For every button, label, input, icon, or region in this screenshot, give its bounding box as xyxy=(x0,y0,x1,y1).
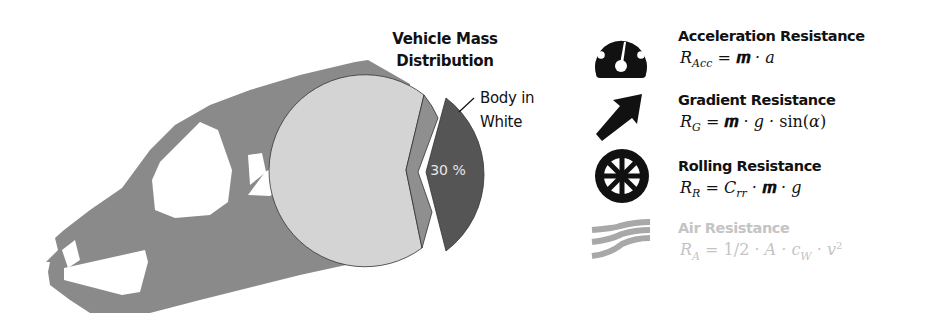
legend-name: Acceleration Resistance xyxy=(678,28,865,44)
wheel-icon xyxy=(590,148,652,208)
legend-item-air: Air Resistance RA = 1/2 · A · cW · v2 xyxy=(590,218,930,278)
pie-title-line-2: Distribution xyxy=(385,50,505,72)
pie-label-line-1: Body in xyxy=(480,86,534,110)
resistance-legend: Acceleration Resistance RAcc = 𝒎 · a Gra… xyxy=(590,0,931,313)
pie-title-line-1: Vehicle Mass xyxy=(385,28,505,50)
arrow-up-right-icon xyxy=(590,90,652,150)
pie-slice-label: Body in White xyxy=(480,86,534,134)
legend-item-acceleration: Acceleration Resistance RAcc = 𝒎 · a xyxy=(590,26,930,86)
leader-line xyxy=(459,98,474,112)
legend-formula: RAcc = 𝒎 · a xyxy=(680,48,775,70)
legend-name: Air Resistance xyxy=(678,220,790,236)
legend-formula: RG = 𝒎 · g · sin(α) xyxy=(680,112,826,134)
diagram: Vehicle Mass Distribution Body in White … xyxy=(0,0,931,313)
pie-title: Vehicle Mass Distribution xyxy=(385,28,505,72)
pie-label-line-2: White xyxy=(480,110,534,134)
legend-formula: RR = Crr · 𝒎 · g xyxy=(680,178,801,200)
air-flow-icon xyxy=(590,218,652,278)
legend-item-gradient: Gradient Resistance RG = 𝒎 · g · sin(α) xyxy=(590,88,930,148)
pie-percent-label: 30 % xyxy=(418,162,478,178)
speedometer-icon xyxy=(590,26,652,86)
legend-item-rolling: Rolling Resistance RR = Crr · 𝒎 · g xyxy=(590,148,930,208)
legend-formula: RA = 1/2 · A · cW · v2 xyxy=(680,240,842,263)
pie-slice-remaining xyxy=(269,75,424,267)
legend-name: Gradient Resistance xyxy=(678,92,835,108)
legend-name: Rolling Resistance xyxy=(678,158,821,174)
